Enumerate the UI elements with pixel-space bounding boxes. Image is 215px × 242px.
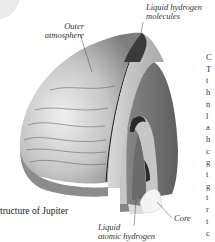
side-text-fragment: h: [206, 87, 215, 99]
side-text-fragment: C: [206, 52, 215, 64]
figure-caption: tructure of Jupiter: [0, 206, 68, 216]
side-text-fragment: a: [206, 122, 215, 134]
label-liquid-atomic-hydrogen: Liquid atomic hydrogen: [98, 223, 155, 241]
label-lah-line-2: atomic hydrogen: [98, 232, 155, 241]
label-liquid-hydrogen-molecules: Liquid hydrogen molecules: [146, 3, 202, 21]
label-lhm-line-2: molecules: [146, 12, 202, 21]
label-core: Core: [174, 214, 191, 223]
side-text-fragment: t: [206, 75, 215, 87]
side-text-fragment: c: [206, 228, 215, 240]
side-text-fragment: t: [206, 216, 215, 228]
side-text-fragment: c: [206, 146, 215, 158]
side-text-fragment: g: [206, 157, 215, 169]
side-text-fragment: n: [206, 99, 215, 111]
side-text-fragment: h: [206, 134, 215, 146]
side-text-fragment: r: [206, 204, 215, 216]
side-text-fragment: T: [206, 64, 215, 76]
side-text-fragment: t: [206, 169, 215, 181]
side-text-fragment: g: [206, 181, 215, 193]
side-text-fragment: t: [206, 192, 215, 204]
side-text-fragment: l: [206, 111, 215, 123]
label-outer-atmosphere: Outer atmosphere: [50, 22, 84, 40]
leader-core: [157, 202, 172, 218]
side-text-column: CTthnlahcgtgtrtc: [206, 52, 215, 239]
label-outer-line-2: atmosphere: [36, 31, 84, 40]
leader-liquid-hydrogen-molecules: [141, 22, 143, 34]
